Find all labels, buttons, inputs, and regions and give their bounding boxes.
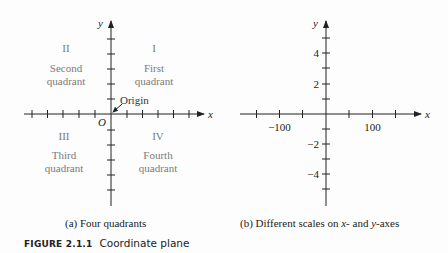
svg-text:Fourth: Fourth <box>143 149 173 161</box>
y-tick-label-neg4: −4 <box>307 168 319 180</box>
x-axis-label-a: x <box>207 108 213 120</box>
y-tick-label-neg2: −2 <box>307 138 319 150</box>
quadrant-ii: II Second quadrant <box>47 42 85 87</box>
x-tick-label-neg100: −100 <box>268 121 291 133</box>
svg-text:quadrant: quadrant <box>139 162 177 174</box>
figure-title: Coordinate plane <box>99 237 189 249</box>
coordinate-plane-figure: x y O Origin II Second quadrant I First … <box>0 0 448 253</box>
y-tick-label-4: 4 <box>314 47 320 59</box>
figure-caption: FIGURE 2.1.1 Coordinate plane <box>24 233 189 251</box>
svg-text:II: II <box>62 42 70 54</box>
svg-text:quadrant: quadrant <box>45 162 83 174</box>
svg-text:quadrant: quadrant <box>135 75 173 87</box>
panel-a-four-quadrants: x y O Origin II Second quadrant I First … <box>24 17 213 206</box>
origin-pointer-arrow-icon <box>113 104 122 112</box>
svg-text:Second: Second <box>50 62 83 74</box>
y-axis-label-b: y <box>312 17 318 29</box>
svg-text:IV: IV <box>152 130 164 142</box>
quadrant-i: I First quadrant <box>135 42 173 87</box>
caption-b-prefix: (b) Different scales on <box>240 217 341 229</box>
caption-a: (a) Four quadrants <box>65 217 146 229</box>
svg-text:III: III <box>59 130 70 142</box>
figure-label: FIGURE 2.1.1 <box>24 239 92 249</box>
y-axis-label-a: y <box>97 17 103 29</box>
quadrant-iv: IV Fourth quadrant <box>139 130 177 174</box>
origin-annotation: Origin <box>120 94 149 106</box>
caption-b: (b) Different scales on x- and y-axes <box>240 217 399 229</box>
x-axis-label-b: x <box>424 108 430 120</box>
y-tick-label-2: 2 <box>314 78 320 90</box>
svg-text:quadrant: quadrant <box>47 75 85 87</box>
caption-b-mid: - and <box>346 217 371 229</box>
origin-label: O <box>98 116 106 128</box>
svg-text:Third: Third <box>52 149 77 161</box>
svg-text:I: I <box>152 42 156 54</box>
svg-text:First: First <box>144 62 164 74</box>
panel-b-different-scales: −100 100 4 2 −2 −4 x y <box>240 17 430 206</box>
x-tick-label-100: 100 <box>364 121 381 133</box>
quadrant-iii: III Third quadrant <box>45 130 83 174</box>
caption-b-suffix: -axes <box>376 217 399 229</box>
